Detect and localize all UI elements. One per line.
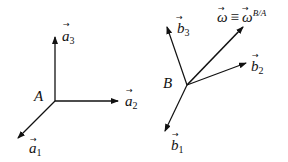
omega-label: ω≡ωB/A xyxy=(217,8,267,25)
omega-vector-arrow xyxy=(187,27,243,85)
vector-a1-arrow xyxy=(18,101,55,138)
a3-label: a3 xyxy=(62,28,75,46)
frame-b: B → b3 → b2 → b1 → → ω≡ωB/A xyxy=(163,4,267,155)
b3-label: b3 xyxy=(177,20,190,38)
a1-label: a1 xyxy=(29,140,42,158)
origin-b-label: B xyxy=(163,75,172,91)
vector-b1-arrow xyxy=(165,85,187,131)
vector-b2-arrow xyxy=(187,63,246,85)
frame-a: A → a3 → a2 → a1 xyxy=(18,20,138,158)
a2-label: a2 xyxy=(125,93,138,111)
reference-frames-diagram: A → a3 → a2 → a1 B → b3 → b2 → b1 → → ω≡… xyxy=(0,0,288,162)
origin-a-label: A xyxy=(33,88,44,104)
b1-label: b1 xyxy=(171,137,184,155)
b2-label: b2 xyxy=(251,58,264,76)
